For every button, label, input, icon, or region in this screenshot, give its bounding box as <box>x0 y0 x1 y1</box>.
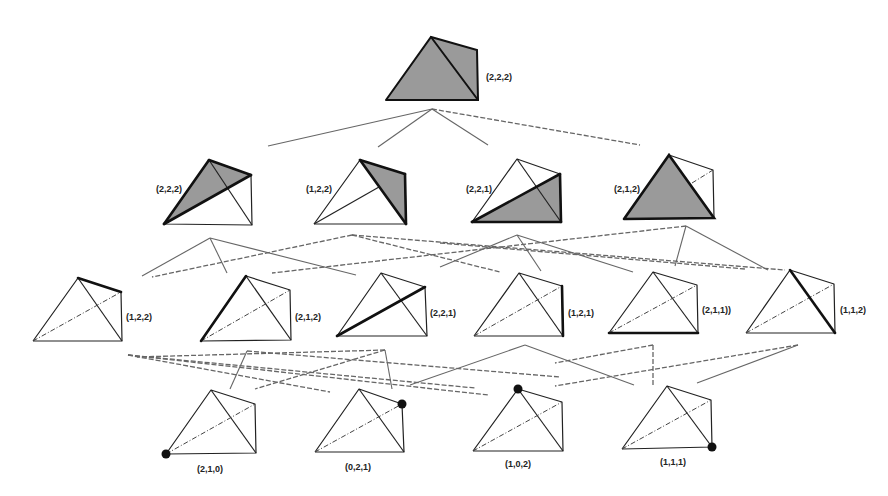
node-level1-122: (1,2,2) <box>306 160 406 224</box>
vertex-marker <box>398 400 407 409</box>
node-level2-212: (2,1,2) <box>201 276 321 341</box>
node-level2-122: (1,2,2) <box>33 278 152 341</box>
node-level1-212: (2,1,2) <box>614 155 714 219</box>
node-label: (1,2,1) <box>568 308 594 318</box>
node-label: (2,1,1)) <box>702 305 731 315</box>
connectors-level2-level3 <box>128 345 798 395</box>
node-level3-210: (2,1,0) <box>162 390 257 474</box>
node-label: (1,0,2) <box>505 459 531 469</box>
node-level2-221: (2,2,1) <box>337 273 456 336</box>
node-label: (2,2,1) <box>430 308 456 318</box>
node-label: (1,1,2) <box>840 305 866 315</box>
node-label: (2,1,2) <box>614 184 640 194</box>
node-label: (2,1,0) <box>197 464 223 474</box>
node-label: (2,1,2) <box>295 312 321 322</box>
node-label: (1,2,2) <box>126 312 152 322</box>
node-level1-221: (2,2,1) <box>466 159 561 222</box>
node-label: (1,1,1) <box>660 457 686 467</box>
node-level2-211: (2,1,1)) <box>609 272 731 333</box>
vertex-marker <box>514 385 523 394</box>
node-level1-222: (2,2,2) <box>156 160 252 225</box>
node-level3-111: (1,1,1) <box>622 386 717 467</box>
vertex-marker <box>708 443 717 452</box>
connectors-level0-level1 <box>268 109 640 147</box>
node-level3-102: (1,0,2) <box>473 385 563 470</box>
node-label: (0,2,1) <box>345 462 371 472</box>
node-label: (2,2,2) <box>156 184 182 194</box>
node-label: (1,2,2) <box>306 184 332 194</box>
node-label: (2,2,1) <box>466 184 492 194</box>
node-level2-112: (1,1,2) <box>746 270 866 333</box>
tetrahedron-refinement-diagram: (2,2,2) (2,2,2) (1,2,2) (2,2,1) (2 <box>0 0 888 496</box>
connectors-level1-level2 <box>142 226 785 277</box>
node-label: (2,2,2) <box>486 72 512 82</box>
node-level2-121: (1,2,1) <box>474 273 594 336</box>
vertex-marker <box>162 450 171 459</box>
node-level0-222: (2,2,2) <box>386 37 512 100</box>
node-level3-021: (0,2,1) <box>315 389 407 472</box>
